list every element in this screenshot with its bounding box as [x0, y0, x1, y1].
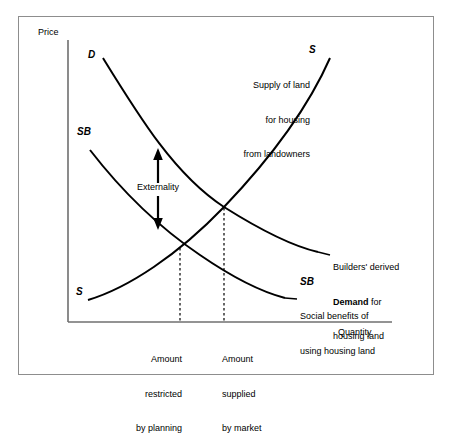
x-marker-restricted: Amount restricted by planning [114, 331, 182, 437]
social-benefit-curve-label-top: SB [77, 126, 91, 138]
supply-annotation-line2: for housing [198, 115, 310, 127]
demand-note-leader [318, 252, 330, 255]
x-marker-supplied-line3: by market [222, 423, 296, 435]
supply-annotation-line3: from landowners [198, 149, 310, 161]
social-benefit-annotation-line2: using housing land [300, 346, 418, 358]
y-axis-label: Price [38, 27, 59, 39]
x-marker-supplied-line1: Amount [222, 354, 296, 366]
x-marker-supplied: Amount supplied by market [222, 331, 296, 437]
supply-curve-label-bottom: S [76, 286, 83, 298]
social-benefit-curve-label-right: SB [300, 276, 314, 288]
supply-annotation-line1: Supply of land [198, 80, 310, 92]
social-benefit-annotation-line1: Social benefits of [300, 311, 418, 323]
social-benefit-annotation: Social benefits of using housing land [300, 288, 418, 380]
supply-annotation: Supply of land for housing from landowne… [198, 57, 310, 184]
x-marker-restricted-line2: restricted [114, 389, 182, 401]
externality-label: Externality [126, 182, 190, 194]
supply-curve-label: S [309, 44, 316, 56]
demand-annotation-line1: Builders' derived [333, 262, 433, 274]
sb-note-leader [285, 298, 297, 299]
x-marker-restricted-line3: by planning [114, 423, 182, 435]
externality-up-arrow [153, 148, 163, 183]
x-marker-supplied-line2: supplied [222, 389, 296, 401]
demand-curve-label: D [88, 49, 95, 61]
x-marker-restricted-line1: Amount [114, 354, 182, 366]
